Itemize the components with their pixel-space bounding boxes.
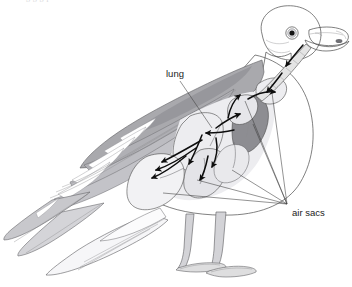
leg-rear	[178, 214, 194, 269]
air-sac-leader-6	[272, 93, 287, 204]
diagram-canvas: lung air sacs	[0, 0, 352, 287]
cheek-crease	[266, 40, 289, 44]
beak-tip-mark	[336, 31, 346, 39]
beak-ridge	[310, 33, 343, 35]
beak-lower	[305, 40, 349, 51]
beak-gonys-spot	[336, 39, 343, 43]
bird-respiratory-diagram: g g g p	[0, 0, 352, 287]
throat-crease	[268, 48, 290, 53]
leg-front	[209, 212, 226, 271]
label-lung: lung	[166, 68, 184, 79]
bird-body-group	[4, 6, 349, 277]
eye-pupil	[289, 30, 294, 35]
label-air-sacs: air sacs	[292, 207, 325, 218]
air-sac-leader-3	[232, 170, 287, 204]
legs-feet-group	[176, 212, 256, 277]
